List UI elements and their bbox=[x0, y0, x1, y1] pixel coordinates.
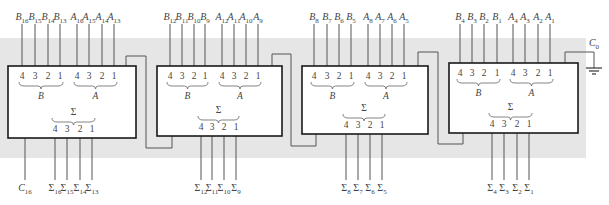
sum-group-label: Σ bbox=[361, 103, 367, 113]
a-input-label: A5 bbox=[398, 11, 409, 25]
a-input-label: A6 bbox=[386, 11, 397, 25]
sum-pin-number: 1 bbox=[234, 122, 239, 132]
b-group-label: B bbox=[38, 91, 44, 101]
pin-number: 1 bbox=[203, 71, 208, 81]
pin-number: 4 bbox=[75, 71, 80, 81]
pin-number: 3 bbox=[470, 68, 475, 78]
sum-pin-number: 4 bbox=[344, 120, 349, 130]
sum-pin-number: 2 bbox=[222, 122, 227, 132]
a-group-label: A bbox=[92, 91, 99, 101]
ripple-carry-adder-diagram: B16B15B14B13A16A15A14A1343214321BA4321ΣΣ… bbox=[0, 0, 609, 205]
carry-out-label: C16 bbox=[18, 182, 32, 196]
pin-number: 1 bbox=[402, 71, 407, 81]
pin-number: 3 bbox=[523, 68, 528, 78]
sum-pin-number: 4 bbox=[199, 122, 204, 132]
pin-number: 2 bbox=[192, 71, 197, 81]
sum-output-label: Σ2 bbox=[512, 182, 522, 196]
a-input-label: A4 bbox=[507, 11, 518, 25]
b-input-label: B8 bbox=[309, 11, 319, 25]
sum-output-label: Σ15 bbox=[61, 182, 74, 196]
a-input-label: A8 bbox=[362, 11, 373, 25]
b-input-label: B15 bbox=[28, 11, 42, 25]
b-group-label: B bbox=[330, 91, 336, 101]
a-input-label: A3 bbox=[519, 11, 530, 25]
sum-pin-number: 3 bbox=[65, 124, 70, 134]
pin-number: 2 bbox=[390, 71, 395, 81]
pin-number: 3 bbox=[87, 71, 92, 81]
b-input-label: B5 bbox=[346, 11, 356, 25]
b-input-label: B16 bbox=[15, 11, 29, 25]
pin-number: 4 bbox=[511, 68, 516, 78]
adder-block-adder-bits-16-13 bbox=[8, 66, 136, 138]
pin-number: 3 bbox=[378, 71, 383, 81]
sum-output-label: Σ9 bbox=[231, 182, 241, 196]
sum-pin-number: 2 bbox=[368, 120, 373, 130]
pin-number: 2 bbox=[536, 68, 541, 78]
pin-number: 1 bbox=[548, 68, 553, 78]
pin-number: 4 bbox=[20, 71, 25, 81]
a-group-label: A bbox=[528, 88, 535, 98]
b-group-label: B bbox=[185, 91, 191, 101]
b-group-label: B bbox=[476, 88, 482, 98]
sum-group-label: Σ bbox=[216, 105, 222, 115]
a-group-label: A bbox=[236, 91, 243, 101]
a-input-label: A2 bbox=[532, 11, 543, 25]
a-input-label: A10 bbox=[238, 11, 253, 25]
pin-number: 3 bbox=[33, 71, 38, 81]
pin-number: 4 bbox=[366, 71, 371, 81]
a-input-label: A13 bbox=[106, 11, 121, 25]
pin-number: 1 bbox=[256, 71, 261, 81]
pin-number: 2 bbox=[244, 71, 249, 81]
sum-group-label: Σ bbox=[71, 107, 77, 117]
pin-number: 2 bbox=[337, 71, 342, 81]
pin-number: 4 bbox=[458, 68, 463, 78]
b-input-label: B10 bbox=[187, 11, 201, 25]
pin-number: 4 bbox=[220, 71, 225, 81]
sum-output-label: Σ8 bbox=[341, 182, 351, 196]
a-input-label: A7 bbox=[374, 11, 385, 25]
pin-number: 3 bbox=[325, 71, 330, 81]
sum-pin-number: 1 bbox=[380, 120, 385, 130]
sum-pin-number: 3 bbox=[210, 122, 215, 132]
pin-number: 2 bbox=[100, 71, 105, 81]
b-input-label: B6 bbox=[334, 11, 344, 25]
a-input-label: A9 bbox=[252, 11, 263, 25]
carry-in-label: C0 bbox=[589, 37, 600, 51]
pin-number: 1 bbox=[112, 71, 117, 81]
a-group-label: A bbox=[382, 91, 389, 101]
sum-pin-number: 2 bbox=[78, 124, 83, 134]
pin-number: 4 bbox=[168, 71, 173, 81]
sum-pin-number: 4 bbox=[53, 124, 58, 134]
a-input-label: A15 bbox=[81, 11, 96, 25]
ground-icon bbox=[586, 68, 602, 74]
sum-output-label: Σ3 bbox=[499, 182, 509, 196]
pin-number: 2 bbox=[482, 68, 487, 78]
sum-pin-number: 3 bbox=[502, 119, 507, 129]
b-input-label: B3 bbox=[467, 11, 477, 25]
sum-output-label: Σ6 bbox=[365, 182, 375, 196]
sum-output-label: Σ10 bbox=[218, 182, 231, 196]
pin-number: 3 bbox=[180, 71, 185, 81]
sum-pin-number: 1 bbox=[90, 124, 95, 134]
sum-output-label: Σ1 bbox=[524, 182, 534, 196]
b-input-label: B4 bbox=[455, 11, 465, 25]
pin-number: 4 bbox=[312, 71, 317, 81]
sum-pin-number: 2 bbox=[515, 119, 520, 129]
sum-pin-number: 1 bbox=[527, 119, 532, 129]
b-input-label: B7 bbox=[322, 11, 332, 25]
sum-group-label: Σ bbox=[508, 102, 514, 112]
b-input-label: B13 bbox=[53, 11, 67, 25]
sum-output-label: Σ5 bbox=[377, 182, 387, 196]
b-input-label: B1 bbox=[492, 11, 502, 25]
pin-number: 1 bbox=[495, 68, 500, 78]
sum-output-label: Σ7 bbox=[353, 182, 363, 196]
pin-number: 2 bbox=[46, 71, 51, 81]
b-input-label: B2 bbox=[479, 11, 489, 25]
sum-pin-number: 4 bbox=[490, 119, 495, 129]
pin-number: 1 bbox=[58, 71, 63, 81]
sum-pin-number: 3 bbox=[356, 120, 361, 130]
pin-number: 1 bbox=[349, 71, 354, 81]
sum-output-label: Σ13 bbox=[86, 182, 99, 196]
sum-output-label: Σ4 bbox=[487, 182, 497, 196]
b-input-label: B9 bbox=[200, 11, 210, 25]
